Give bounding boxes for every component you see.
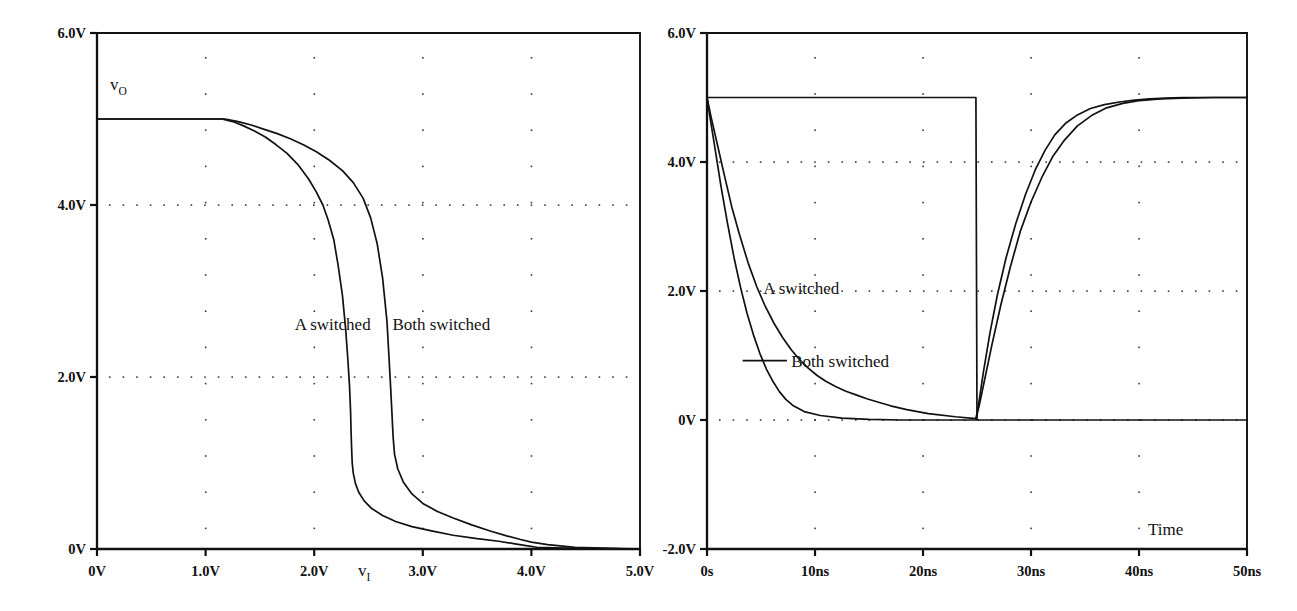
- grid-dot: [422, 238, 424, 240]
- grid-dot: [314, 491, 316, 493]
- grid-dot: [354, 376, 356, 378]
- grid-dot: [558, 204, 560, 206]
- grid-dot: [964, 290, 966, 292]
- grid-dot: [123, 204, 125, 206]
- grid-dot: [1127, 290, 1129, 292]
- grid-dot: [882, 290, 884, 292]
- grid-dot: [558, 376, 560, 378]
- x-axis-variable-label: Time: [1148, 520, 1183, 539]
- grid-dot: [814, 93, 816, 95]
- grid-dot: [950, 161, 952, 163]
- grid-dot: [422, 419, 424, 421]
- grid-dot: [585, 376, 587, 378]
- grid-dot: [828, 419, 830, 421]
- y-tick-label: 2.0V: [667, 283, 696, 299]
- grid-dot: [828, 161, 830, 163]
- grid-dot: [314, 310, 316, 312]
- grid-dot: [1138, 57, 1140, 59]
- grid-dot: [381, 376, 383, 378]
- grid-dot: [463, 376, 465, 378]
- grid-dot: [612, 204, 614, 206]
- grid-dot: [286, 204, 288, 206]
- grid-dot: [354, 204, 356, 206]
- grid-dot: [191, 376, 193, 378]
- grid-dot: [1030, 93, 1032, 95]
- grid-dot: [531, 204, 533, 206]
- grid-dot: [109, 376, 111, 378]
- grid-dot: [760, 419, 762, 421]
- grid-dot: [1209, 161, 1211, 163]
- grid-dot: [531, 383, 533, 385]
- grid-dot: [612, 376, 614, 378]
- grid-dot: [922, 93, 924, 95]
- grid-dot: [503, 204, 505, 206]
- grid-dot: [314, 57, 316, 59]
- grid-dot: [991, 290, 993, 292]
- grid-dot: [773, 419, 775, 421]
- left-panel-group: 0V2.0V4.0V6.0V0V1.0V2.0V3.0V4.0V5.0VA sw…: [57, 25, 654, 583]
- grid-dot: [922, 166, 924, 168]
- grid-dot: [814, 129, 816, 131]
- x-tick-label: 0s: [701, 563, 714, 579]
- grid-dot: [896, 161, 898, 163]
- grid-dot: [571, 204, 573, 206]
- grid-dot: [922, 274, 924, 276]
- grid-dot: [314, 166, 316, 168]
- grid-dot: [1086, 290, 1088, 292]
- grid-dot: [109, 204, 111, 206]
- grid-dot: [531, 57, 533, 59]
- grid-dot: [422, 347, 424, 349]
- grid-dot: [163, 204, 165, 206]
- grid-dot: [760, 161, 762, 163]
- grid-dot: [531, 491, 533, 493]
- grid-dot: [218, 376, 220, 378]
- grid-dot: [205, 528, 207, 530]
- grid-dot: [1030, 528, 1032, 530]
- grid-dot: [801, 419, 803, 421]
- grid-dot: [531, 376, 533, 378]
- grid-dot: [746, 290, 748, 292]
- series-input-pulse: [707, 98, 1247, 421]
- grid-dot: [205, 419, 207, 421]
- grid-dot: [855, 161, 857, 163]
- grid-dot: [231, 204, 233, 206]
- grid-dot: [896, 290, 898, 292]
- grid-dot: [882, 161, 884, 163]
- y-tick-label: -2.0V: [663, 541, 697, 557]
- grid-dot: [1138, 455, 1140, 457]
- both-switched-label: Both switched: [392, 315, 490, 334]
- grid-dot: [801, 161, 803, 163]
- x-tick-label: 10ns: [801, 563, 830, 579]
- grid-dot: [1209, 290, 1211, 292]
- grid-dot: [814, 57, 816, 59]
- grid-dot: [245, 376, 247, 378]
- grid-dot: [408, 376, 410, 378]
- grid-dot: [571, 376, 573, 378]
- grid-dot: [1138, 528, 1140, 530]
- y-axis-variable-label: vO: [110, 75, 127, 97]
- grid-dot: [814, 310, 816, 312]
- grid-dot: [531, 419, 533, 421]
- grid-dot: [719, 290, 721, 292]
- grid-dot: [977, 290, 979, 292]
- x-tick-label: 30ns: [1017, 563, 1046, 579]
- grid-dot: [841, 419, 843, 421]
- grid-dot: [1236, 161, 1238, 163]
- grid-dot: [1100, 290, 1102, 292]
- grid-dot: [1113, 161, 1115, 163]
- grid-dot: [205, 57, 207, 59]
- grid-dot: [922, 310, 924, 312]
- grid-dot: [205, 238, 207, 240]
- grid-dot: [733, 290, 735, 292]
- series-a-switched: [97, 119, 640, 549]
- grid-dot: [1030, 491, 1032, 493]
- grid-dot: [1168, 161, 1170, 163]
- grid-dot: [205, 347, 207, 349]
- grid-dot: [381, 204, 383, 206]
- a-switched-label: A switched: [295, 315, 372, 334]
- grid-dot: [408, 204, 410, 206]
- grid-dot: [422, 202, 424, 204]
- grid-dot: [327, 376, 329, 378]
- grid-dot: [814, 274, 816, 276]
- grid-dot: [1005, 161, 1007, 163]
